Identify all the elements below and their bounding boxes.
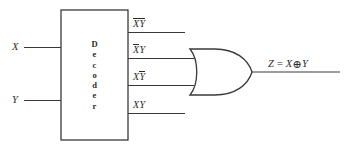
- or-gate-shape: [190, 49, 252, 95]
- output-label-m2: XY: [133, 72, 145, 82]
- xor-operator-icon: ⊕: [292, 59, 301, 70]
- output-expression: Z = X⊕Y: [268, 58, 308, 70]
- input-label-y: Y: [12, 95, 18, 106]
- output-m3-second: Y: [139, 99, 145, 110]
- output-label-m1: XY: [133, 45, 145, 55]
- output-m1-second: Y: [139, 44, 145, 55]
- input-label-x: X: [12, 42, 18, 53]
- diagram-canvas: [0, 0, 347, 149]
- output-operand-left: X: [286, 58, 293, 69]
- output-operand-right: Y: [302, 58, 308, 69]
- output-m1-base: X: [133, 45, 139, 55]
- logic-diagram: D e c o d e r X Y XY XY XY XY Z = X⊕Y: [0, 0, 347, 149]
- output-label-m0: XY: [133, 19, 145, 29]
- output-m0-second: Y: [139, 19, 145, 29]
- output-label-m3: XY: [133, 100, 145, 110]
- decoder-box: [61, 10, 128, 140]
- output-m2-second: Y: [139, 72, 145, 82]
